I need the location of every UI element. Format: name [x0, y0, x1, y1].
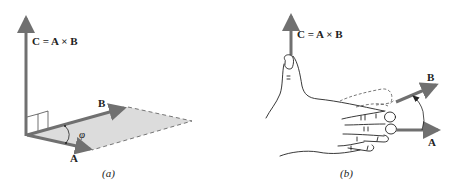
right-hand [266, 55, 397, 156]
panel-b: C = A × B B A (b) [266, 16, 438, 180]
label-c-equals-a-cross-b: C = A × B [297, 28, 343, 40]
caption-b: (b) [340, 167, 353, 180]
vector-b [396, 85, 436, 102]
label-b: B [427, 71, 435, 83]
panel-a: C = A × B B A φ (a) [26, 18, 192, 180]
label-phi: φ [79, 128, 85, 140]
label-a: A [428, 136, 436, 148]
caption-a: (a) [102, 167, 115, 180]
rotated-fingers-outline [340, 89, 394, 107]
label-c-equals-a-cross-b: C = A × B [32, 35, 78, 47]
cross-product-figure: C = A × B B A φ (a) [0, 0, 459, 190]
label-a: A [70, 152, 78, 164]
angle-arc [413, 96, 424, 130]
label-b: B [98, 97, 106, 109]
